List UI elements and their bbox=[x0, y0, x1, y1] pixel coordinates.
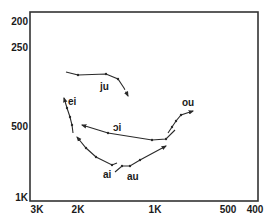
x-tick-label: 3K bbox=[31, 204, 45, 215]
data-point bbox=[85, 147, 87, 149]
data-point bbox=[175, 120, 177, 122]
x-tick-label: 400 bbox=[247, 204, 264, 215]
vowel-label: ju bbox=[99, 81, 109, 92]
data-point bbox=[180, 114, 182, 116]
vowel-label: ɔi bbox=[113, 122, 122, 133]
data-point bbox=[105, 73, 107, 75]
data-point bbox=[151, 139, 153, 141]
data-point bbox=[77, 74, 79, 76]
vowel-label: ai bbox=[103, 169, 112, 180]
data-point bbox=[117, 78, 119, 80]
vowel-label: ou bbox=[182, 97, 194, 108]
vowel-label: au bbox=[127, 171, 139, 182]
data-point bbox=[139, 159, 141, 161]
trajectory-ɔi: ɔi bbox=[82, 122, 175, 141]
trajectory-au: au bbox=[115, 146, 166, 182]
data-point bbox=[66, 107, 68, 109]
plot-frame bbox=[30, 12, 258, 201]
data-point bbox=[71, 124, 73, 126]
y-tick-label: 500 bbox=[11, 121, 28, 132]
y-tick-label: 200 bbox=[11, 16, 28, 27]
y-tick-label: 1K bbox=[15, 192, 29, 203]
vowel-label: ei bbox=[68, 96, 77, 107]
data-point bbox=[121, 165, 123, 167]
x-tick-label: 2K bbox=[72, 204, 86, 215]
trajectory-ei: ei bbox=[64, 96, 77, 133]
trajectories: jueiɔiaiauou bbox=[64, 72, 194, 182]
data-point bbox=[69, 116, 71, 118]
data-point bbox=[107, 132, 109, 134]
data-point bbox=[165, 138, 167, 140]
y-tick-label: 250 bbox=[11, 42, 28, 53]
trajectory-ai: ai bbox=[77, 137, 117, 180]
x-tick-label: 500 bbox=[220, 204, 237, 215]
y-axis-ticks: 2002505001K bbox=[11, 16, 28, 203]
data-point bbox=[129, 165, 131, 167]
x-tick-label: 1K bbox=[149, 204, 163, 215]
data-point bbox=[95, 156, 97, 158]
data-point bbox=[111, 164, 113, 166]
formant-chart: 2002505001K 3K2K1K500400 jueiɔiaiauou bbox=[0, 0, 269, 219]
trajectory-ju: ju bbox=[66, 72, 128, 96]
x-axis-ticks: 3K2K1K500400 bbox=[31, 204, 264, 215]
data-point bbox=[171, 126, 173, 128]
trajectory-ou: ou bbox=[168, 97, 194, 133]
